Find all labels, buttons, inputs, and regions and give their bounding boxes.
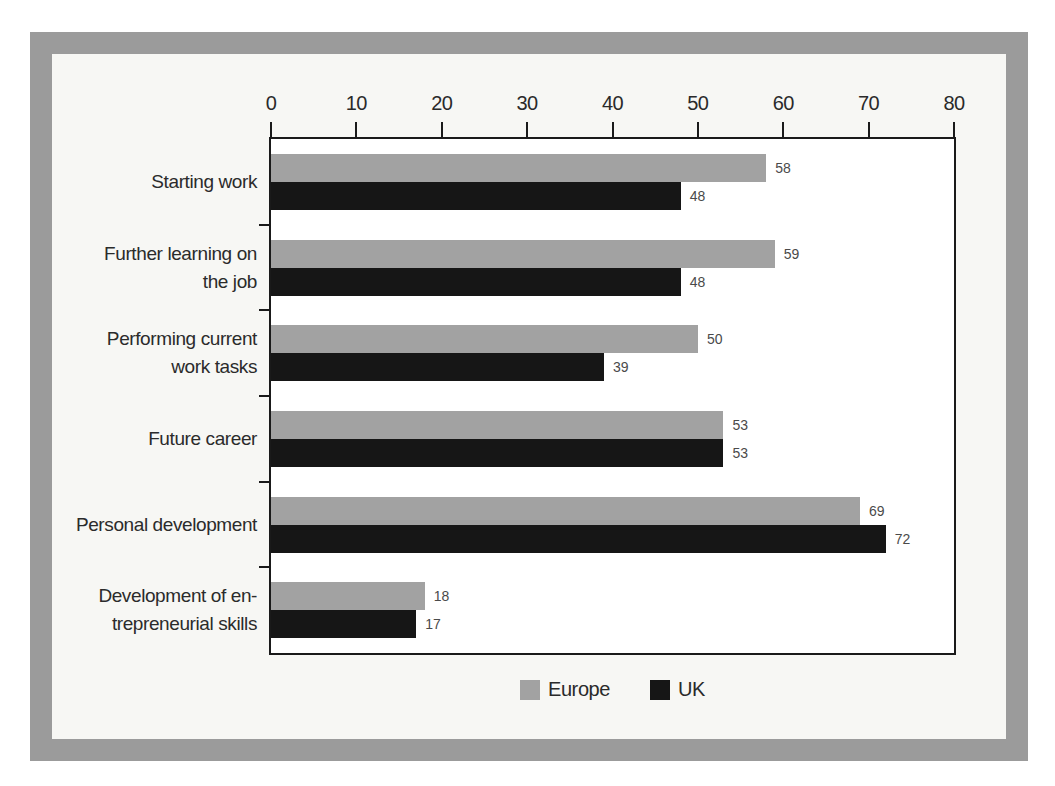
x-axis-tick-mark bbox=[526, 122, 528, 137]
category-label-line: Starting work bbox=[47, 168, 257, 196]
category-label: Further learning onthe job bbox=[47, 240, 257, 296]
category-label: Starting work bbox=[47, 168, 257, 196]
bar-europe bbox=[271, 582, 425, 610]
bar-value-label: 59 bbox=[784, 246, 800, 262]
bar-value-label: 58 bbox=[775, 160, 791, 176]
x-axis-tick-mark bbox=[697, 122, 699, 137]
x-axis-tick-mark bbox=[441, 122, 443, 137]
x-axis-tick-label: 50 bbox=[687, 92, 708, 115]
bar-value-label: 48 bbox=[690, 274, 706, 290]
bar-uk bbox=[271, 182, 681, 210]
bar-europe bbox=[271, 325, 698, 353]
bar-uk bbox=[271, 268, 681, 296]
bar-value-label: 53 bbox=[732, 445, 748, 461]
x-axis-tick-label: 80 bbox=[943, 92, 964, 115]
category-label-line: Performing current bbox=[47, 325, 257, 353]
y-axis-tick-mark bbox=[259, 309, 269, 311]
x-axis-tick-label: 70 bbox=[858, 92, 879, 115]
x-axis-tick-label: 30 bbox=[517, 92, 538, 115]
x-axis-tick-mark bbox=[953, 122, 955, 137]
category-label: Future career bbox=[47, 425, 257, 453]
legend-entry-uk: UK bbox=[650, 678, 705, 701]
x-axis-tick-label: 60 bbox=[773, 92, 794, 115]
category-label-line: trepreneurial skills bbox=[47, 610, 257, 638]
category-label-line: work tasks bbox=[47, 353, 257, 381]
plot-area bbox=[269, 137, 956, 655]
y-axis-tick-mark bbox=[259, 481, 269, 483]
x-axis-tick-mark bbox=[270, 122, 272, 137]
y-axis-tick-mark bbox=[259, 224, 269, 226]
figure-page: 01020304050607080Starting work5848Furthe… bbox=[0, 0, 1055, 786]
bar-europe bbox=[271, 497, 860, 525]
bar-uk bbox=[271, 439, 723, 467]
category-label-line: Development of en- bbox=[47, 582, 257, 610]
x-axis-tick-label: 40 bbox=[602, 92, 623, 115]
bar-value-label: 72 bbox=[895, 531, 911, 547]
bar-europe bbox=[271, 240, 775, 268]
y-axis-tick-mark bbox=[259, 395, 269, 397]
x-axis-tick-label: 20 bbox=[431, 92, 452, 115]
bar-uk bbox=[271, 353, 604, 381]
category-label: Development of en-trepreneurial skills bbox=[47, 582, 257, 638]
legend-entry-europe: Europe bbox=[520, 678, 610, 701]
legend-swatch-europe bbox=[520, 680, 540, 700]
bar-uk bbox=[271, 525, 886, 553]
legend-label: UK bbox=[678, 678, 705, 701]
x-axis-tick-mark bbox=[355, 122, 357, 137]
x-axis-tick-mark bbox=[782, 122, 784, 137]
bar-value-label: 69 bbox=[869, 503, 885, 519]
category-label: Performing currentwork tasks bbox=[47, 325, 257, 381]
bar-value-label: 18 bbox=[434, 588, 450, 604]
chart-legend: EuropeUK bbox=[269, 678, 956, 701]
y-axis-tick-mark bbox=[259, 566, 269, 568]
bar-value-label: 39 bbox=[613, 359, 629, 375]
bar-europe bbox=[271, 411, 723, 439]
legend-swatch-uk bbox=[650, 680, 670, 700]
x-axis-tick-mark bbox=[612, 122, 614, 137]
x-axis-tick-mark bbox=[868, 122, 870, 137]
legend-label: Europe bbox=[548, 678, 610, 701]
bar-value-label: 50 bbox=[707, 331, 723, 347]
category-label: Personal development bbox=[47, 511, 257, 539]
bar-europe bbox=[271, 154, 766, 182]
category-label-line: Future career bbox=[47, 425, 257, 453]
bar-value-label: 48 bbox=[690, 188, 706, 204]
bar-value-label: 17 bbox=[425, 616, 441, 632]
bar-value-label: 53 bbox=[732, 417, 748, 433]
x-axis-tick-label: 10 bbox=[346, 92, 367, 115]
x-axis-tick-label: 0 bbox=[266, 92, 277, 115]
category-label-line: Personal development bbox=[47, 511, 257, 539]
category-label-line: the job bbox=[47, 268, 257, 296]
category-label-line: Further learning on bbox=[47, 240, 257, 268]
bar-uk bbox=[271, 610, 416, 638]
